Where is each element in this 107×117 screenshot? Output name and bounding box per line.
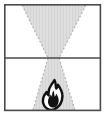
diagram-canvas bbox=[0, 0, 107, 117]
figure-container bbox=[0, 0, 107, 117]
